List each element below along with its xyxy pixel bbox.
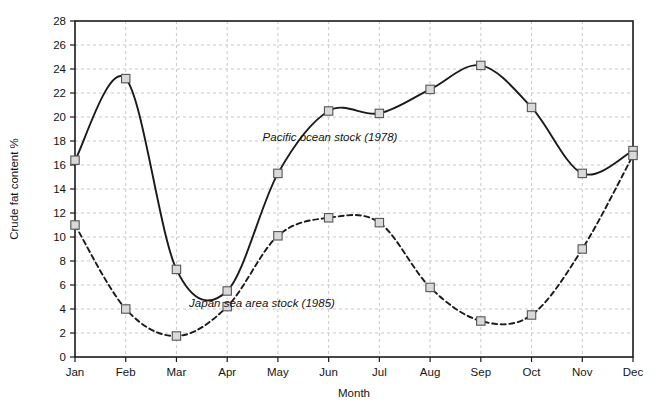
data-point-marker <box>223 287 231 295</box>
y-axis-tick-label: 28 <box>53 15 66 27</box>
x-axis-tick-label: Jun <box>319 366 338 378</box>
y-axis-tick-label: 22 <box>53 87 66 99</box>
crude-fat-content-line-chart: 0246810121416182022242628Crude fat conte… <box>0 0 661 407</box>
y-axis-tick-label: 8 <box>60 255 66 267</box>
x-axis-tick-label: Dec <box>623 366 644 378</box>
y-axis-tick-label: 26 <box>53 39 66 51</box>
data-point-marker <box>324 214 332 222</box>
x-axis: JanFebMarAprMayJunJulAugSepOctNovDecMont… <box>66 357 644 399</box>
data-point-marker <box>324 107 332 115</box>
data-point-marker <box>172 332 180 340</box>
x-axis-tick-label: Feb <box>116 366 136 378</box>
data-point-marker <box>477 317 485 325</box>
data-point-marker <box>578 169 586 177</box>
y-axis-tick-label: 0 <box>60 351 66 363</box>
x-axis-tick-label: Oct <box>523 366 542 378</box>
series-line <box>75 65 633 300</box>
series-pacific-ocean-stock <box>71 61 637 300</box>
data-point-marker <box>122 74 130 82</box>
y-axis-tick-label: 10 <box>53 231 66 243</box>
series-japan-sea-area-stock <box>71 151 637 340</box>
x-axis-tick-label: Aug <box>420 366 440 378</box>
chart-canvas: 0246810121416182022242628Crude fat conte… <box>0 0 661 407</box>
y-axis-tick-label: 14 <box>53 183 66 195</box>
x-axis-title: Month <box>338 387 370 399</box>
data-point-marker <box>375 109 383 117</box>
x-axis-tick-label: Mar <box>167 366 187 378</box>
y-axis-title: Crude fat content % <box>8 138 20 240</box>
series-annotation-label: Japan sea area stock (1985) <box>188 297 335 309</box>
x-axis-tick-label: Jan <box>66 366 85 378</box>
y-axis-tick-label: 2 <box>60 327 66 339</box>
x-axis-tick-label: Sep <box>471 366 491 378</box>
data-point-marker <box>71 156 79 164</box>
data-point-marker <box>426 283 434 291</box>
data-point-marker <box>426 85 434 93</box>
y-axis-tick-label: 18 <box>53 135 66 147</box>
data-point-marker <box>122 305 130 313</box>
y-axis-tick-label: 16 <box>53 159 66 171</box>
series-annotations: Pacific ocean stock (1978)Japan sea area… <box>188 131 397 309</box>
y-axis-tick-label: 24 <box>53 63 66 75</box>
gridlines <box>75 21 633 357</box>
y-axis-tick-label: 12 <box>53 207 66 219</box>
x-axis-tick-label: Nov <box>572 366 593 378</box>
data-point-marker <box>274 169 282 177</box>
y-axis-tick-label: 4 <box>60 303 67 315</box>
y-axis-tick-label: 6 <box>60 279 66 291</box>
data-point-marker <box>477 61 485 69</box>
y-axis-tick-label: 20 <box>53 111 66 123</box>
series-annotation-label: Pacific ocean stock (1978) <box>263 131 398 143</box>
y-axis: 0246810121416182022242628Crude fat conte… <box>8 15 75 363</box>
x-axis-tick-label: Apr <box>218 366 236 378</box>
x-axis-tick-label: May <box>267 366 289 378</box>
data-point-marker <box>527 311 535 319</box>
data-point-marker <box>527 103 535 111</box>
data-point-marker <box>71 221 79 229</box>
data-point-marker <box>375 218 383 226</box>
data-point-marker <box>629 151 637 159</box>
x-axis-tick-label: Jul <box>372 366 387 378</box>
data-point-marker <box>172 265 180 273</box>
data-point-marker <box>274 232 282 240</box>
data-point-marker <box>578 245 586 253</box>
